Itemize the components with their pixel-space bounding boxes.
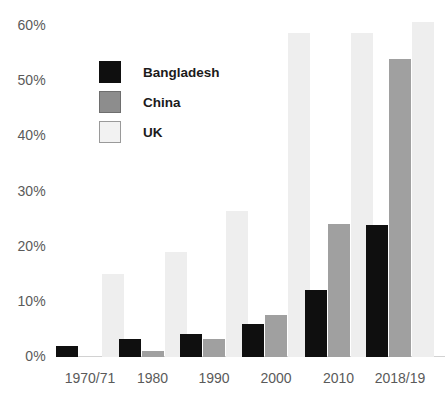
y-axis-tick-label: 40%: [17, 127, 46, 143]
bar-group: [366, 356, 434, 357]
x-axis-tick-label: 1990: [198, 370, 229, 386]
y-axis: 0%10%20%30%40%50%60%: [0, 0, 46, 401]
bar-china-1990: [203, 339, 225, 357]
legend-label: UK: [143, 125, 163, 140]
bar-bangladesh-2010: [305, 290, 327, 357]
bar-china-2010: [328, 224, 350, 357]
legend-item-bangladesh[interactable]: Bangladesh: [99, 57, 220, 87]
bar-uk-2018-19: [412, 22, 434, 357]
bar-group: [305, 356, 373, 357]
legend-item-china[interactable]: China: [99, 87, 220, 117]
y-axis-tick-label: 0%: [25, 348, 46, 364]
y-axis-tick-label: 10%: [17, 293, 46, 309]
legend-label: China: [143, 95, 181, 110]
bar-china-2018-19: [389, 59, 411, 357]
bar-china-2000: [265, 315, 287, 357]
x-axis-tick-label: 1970/71: [65, 370, 116, 386]
legend-label: Bangladesh: [143, 65, 220, 80]
x-axis-tick-label: 1980: [137, 370, 168, 386]
legend-swatch-icon: [99, 61, 121, 83]
bar-group: [56, 356, 124, 357]
legend-item-uk[interactable]: UK: [99, 117, 220, 147]
y-axis-tick-label: 20%: [17, 238, 46, 254]
x-axis-tick-label: 2010: [323, 370, 354, 386]
bar-group: [180, 356, 248, 357]
legend-swatch-icon: [99, 91, 121, 113]
x-axis-tick-label: 2000: [260, 370, 291, 386]
bar-group: [119, 356, 187, 357]
legend-swatch-icon: [99, 121, 121, 143]
y-axis-tick-label: 60%: [17, 17, 46, 33]
x-axis-tick-label: 2018/19: [375, 370, 426, 386]
bar-bangladesh-1990: [180, 334, 202, 357]
y-axis-tick-label: 30%: [17, 183, 46, 199]
bar-bangladesh-2000: [242, 324, 264, 357]
legend: BangladeshChinaUK: [99, 57, 220, 147]
bar-china-1980: [142, 351, 164, 357]
bar-chart: 0%10%20%30%40%50%60% 1970/71198019902000…: [0, 0, 445, 401]
bar-bangladesh-2018-19: [366, 225, 388, 357]
bar-bangladesh-1970-71: [56, 346, 78, 357]
bar-group: [242, 356, 310, 357]
y-axis-tick-label: 50%: [17, 72, 46, 88]
bar-bangladesh-1980: [119, 339, 141, 357]
